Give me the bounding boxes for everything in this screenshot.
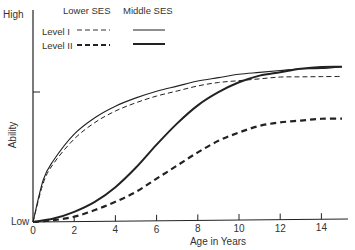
x-axis-label: Age in Years [190,236,246,247]
y-low-label: Low [11,216,30,227]
x-axis [33,219,348,222]
x-tick-label: 4 [113,224,119,235]
legend-header-lower-ses: Lower SES [63,5,111,16]
series-curves [33,67,342,222]
x-tick-label: 0 [30,225,36,236]
x-tick-label: 14 [316,222,328,233]
line-chart: 02468101214 High Low Ability Age in Year… [0,0,355,250]
x-tick-label: 12 [275,223,287,234]
series-line-level-i-middle-ses [33,67,342,222]
series-line-level-ii-middle-ses [33,67,342,222]
legend: Lower SES Middle SES Level I Level II [42,5,173,51]
series-line-level-ii-lower-ses [33,119,342,222]
x-tick-label: 2 [71,225,77,236]
x-tick-label: 10 [233,223,245,234]
legend-level2-label: Level II [42,40,73,51]
x-tick-label: 8 [195,223,201,234]
x-tick-label: 6 [154,224,160,235]
legend-level1-label: Level I [42,26,70,37]
y-axis-label: Ability [7,122,18,149]
legend-header-middle-ses: Middle SES [123,5,173,16]
series-line-level-i-lower-ses [33,76,342,222]
y-high-label: High [3,9,24,20]
